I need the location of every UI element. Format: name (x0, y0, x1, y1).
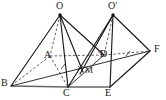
congruence-tick-2 (126, 51, 130, 56)
congruence-tick-1 (61, 64, 65, 69)
vertex-label-D: D (100, 49, 107, 59)
apex-dot-Oprime (111, 13, 114, 16)
edge-Oprime-F (113, 15, 150, 51)
base-edges (11, 86, 110, 87)
apex-markers (58, 13, 114, 16)
apex-dot-O (58, 13, 61, 16)
vertex-label-A: A (44, 50, 51, 60)
pyramid-diagram-svg (0, 0, 166, 100)
vertex-label-B: B (1, 78, 8, 88)
vertex-label-M: M (85, 65, 93, 75)
edge-O-D (60, 15, 104, 55)
geometry-figure-canvas: O O' A D F B C E M (0, 0, 166, 100)
vertex-label-O-prime: O' (108, 1, 117, 11)
edge-B-C (11, 86, 68, 87)
visible-edges (11, 15, 150, 87)
edge-O-A (50, 15, 60, 56)
vertex-label-E: E (105, 88, 111, 98)
vertex-label-O: O (56, 1, 63, 11)
vertex-label-C: C (63, 88, 70, 98)
vertex-label-F: F (154, 44, 160, 54)
